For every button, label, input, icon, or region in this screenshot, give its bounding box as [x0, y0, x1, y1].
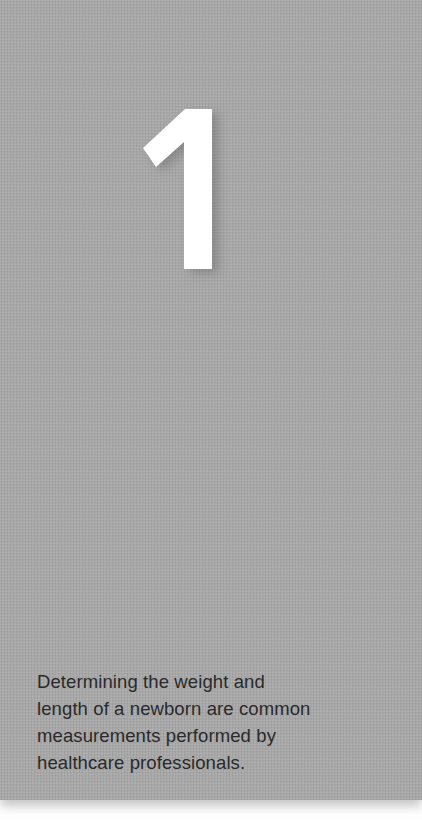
- info-card: 1 Determining the weight and length of a…: [0, 0, 422, 800]
- caption-line: Determining the weight and: [37, 668, 397, 695]
- caption-line: healthcare professionals.: [37, 749, 397, 776]
- caption-line: length of a newborn are common: [37, 695, 397, 722]
- step-number-one: 1: [138, 104, 220, 276]
- caption-line: measurements performed by: [37, 722, 397, 749]
- caption: Determining the weight and length of a n…: [37, 668, 397, 776]
